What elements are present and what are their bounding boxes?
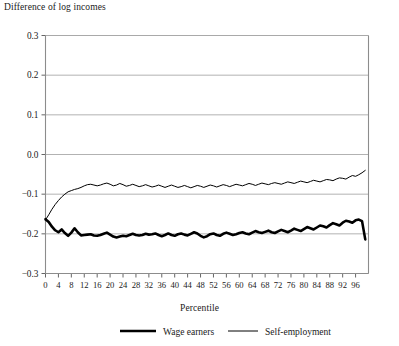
chart-legend: Wage earnersSelf-employment: [120, 327, 331, 337]
x-axis-tick-label: 28: [132, 280, 141, 290]
gridlines-group: [46, 36, 369, 274]
x-axis-tick-label: 0: [43, 280, 47, 290]
x-axis-tick-label: 16: [93, 280, 102, 290]
x-axis-tick-label: 76: [287, 280, 296, 290]
y-axis-tick-label: −0.1: [22, 189, 39, 199]
y-axis-tick-label: 0.0: [27, 150, 39, 160]
x-axis-ticks-group: 0481216202428323640444852566064687276808…: [43, 274, 360, 290]
legend-label-0: Wage earners: [163, 327, 214, 337]
legend-label-1: Self-employment: [265, 327, 331, 337]
x-axis-tick-label: 88: [325, 280, 334, 290]
x-axis-tick-label: 12: [80, 280, 89, 290]
x-axis-tick-label: 40: [170, 280, 179, 290]
x-axis-tick-label: 52: [209, 280, 218, 290]
data-series-group: [46, 170, 366, 239]
y-axis-ticks-group: 0.30.20.10.0−0.1−0.2−0.3: [22, 31, 46, 279]
y-axis-tick-label: −0.2: [22, 229, 39, 239]
plot-canvas: 0.30.20.10.0−0.1−0.2−0.3 048121620242832…: [0, 0, 399, 346]
x-axis-tick-label: 20: [106, 280, 115, 290]
x-axis-tick-label: 92: [338, 280, 347, 290]
y-axis-tick-label: −0.3: [22, 269, 39, 279]
x-axis-tick-label: 4: [56, 280, 61, 290]
x-axis-tick-label: 84: [313, 280, 322, 290]
chart-figure: Difference of log incomes 0.30.20.10.0−0…: [0, 0, 399, 346]
x-axis-tick-label: 60: [235, 280, 244, 290]
x-axis-tick-label: 64: [248, 280, 257, 290]
x-axis-tick-label: 36: [157, 280, 166, 290]
x-axis-title: Percentile: [0, 303, 399, 313]
x-axis-tick-label: 48: [196, 280, 205, 290]
x-axis-tick-label: 80: [300, 280, 309, 290]
x-axis-tick-label: 24: [119, 280, 128, 290]
y-axis-tick-label: 0.2: [27, 70, 39, 80]
x-axis-tick-label: 44: [183, 280, 192, 290]
series-line-1: [46, 170, 366, 220]
x-axis-tick-label: 68: [261, 280, 270, 290]
x-axis-tick-label: 72: [274, 280, 283, 290]
x-axis-tick-label: 32: [145, 280, 154, 290]
x-axis-tick-label: 8: [69, 280, 73, 290]
y-axis-tick-label: 0.3: [27, 31, 39, 41]
x-axis-tick-label: 56: [222, 280, 231, 290]
series-line-0: [46, 219, 366, 239]
y-axis-tick-label: 0.1: [27, 110, 39, 120]
x-axis-tick-label: 96: [351, 280, 360, 290]
